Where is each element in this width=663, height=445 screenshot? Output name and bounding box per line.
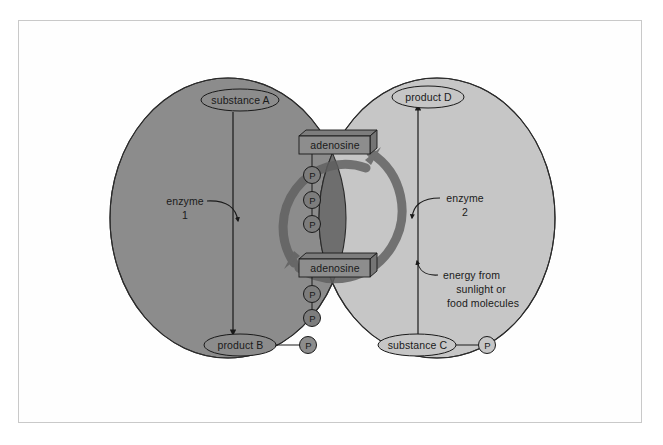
enzyme-1-label: enzyme xyxy=(160,195,210,208)
reaction-cycle-figure xyxy=(0,0,663,445)
phosphate-label: P xyxy=(304,194,321,207)
energy-source-line-2: sunlight or xyxy=(437,283,525,296)
diagram-page: substance A product B product D substanc… xyxy=(0,0,663,445)
substance-a-label: substance A xyxy=(203,94,278,107)
enzyme-1-number: 1 xyxy=(166,209,204,222)
phosphate-label: P xyxy=(304,312,321,325)
phosphate-label: P xyxy=(304,288,321,301)
energy-source-line-1: energy from xyxy=(443,269,500,282)
adenosine-box-top xyxy=(299,130,377,136)
product-d-label: product D xyxy=(393,91,464,104)
enzyme-2-number: 2 xyxy=(446,206,484,219)
right-circle xyxy=(319,78,555,358)
energy-source-line-3: food molecules xyxy=(433,297,533,310)
enzyme-2-label: enzyme xyxy=(440,192,490,205)
product-b-label: product B xyxy=(205,339,276,352)
adenosine-box-top xyxy=(299,253,377,259)
phosphate-label: P xyxy=(304,169,321,182)
adenosine-label-adp: adenosine xyxy=(303,262,367,275)
phosphate-label: P xyxy=(304,218,321,231)
phosphate-label: P xyxy=(300,339,317,352)
phosphate-label: P xyxy=(479,339,496,352)
substance-c-label: substance C xyxy=(379,339,456,352)
adenosine-label-atp: adenosine xyxy=(303,139,367,152)
